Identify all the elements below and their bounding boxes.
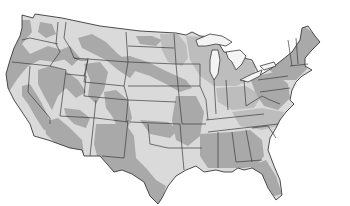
us-map: [0, 0, 350, 206]
zone-deep-south: [200, 130, 264, 168]
